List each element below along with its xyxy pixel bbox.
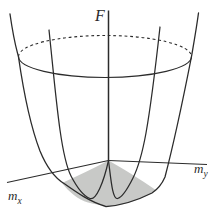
mx-axis-label: mx [8,188,22,206]
my-axis [109,161,208,165]
my-axis-label-subscript: y [202,169,208,179]
rim-ellipse-front [19,57,192,78]
mx-axis-label-base: m [8,188,17,203]
f-axis-label: F [94,7,105,24]
my-axis-label: my [194,161,208,179]
free-energy-surface-figure: F my mx [0,0,212,221]
rim-ellipse-back-dashed [19,36,192,57]
my-axis-label-base: m [194,161,203,176]
paraboloid-diagram: F my mx [0,0,212,221]
mx-axis-label-subscript: x [16,196,22,206]
